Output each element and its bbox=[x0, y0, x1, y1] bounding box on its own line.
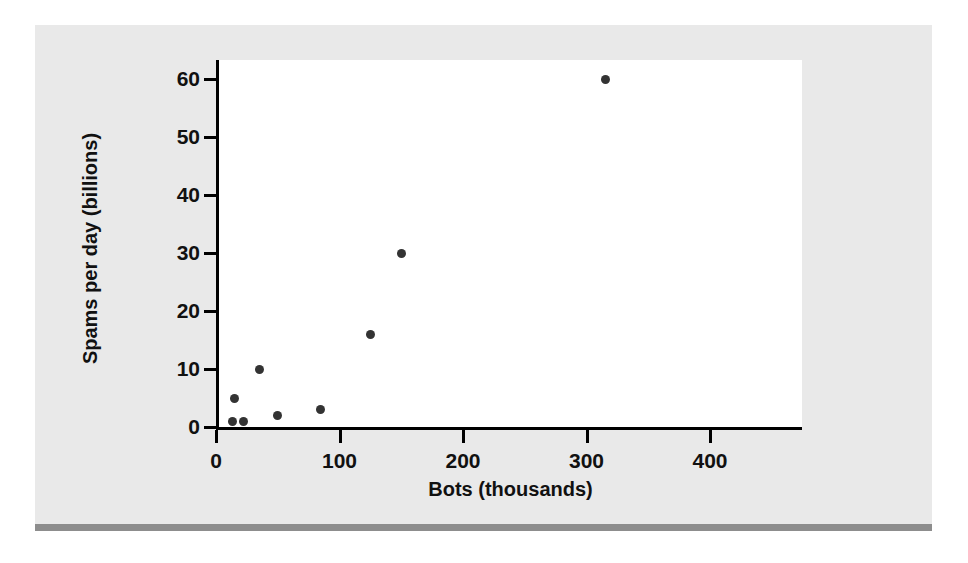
scatter-point bbox=[255, 365, 264, 374]
x-axis-tick-label: 100 bbox=[305, 450, 375, 471]
y-axis-tick bbox=[204, 368, 217, 371]
y-axis-tick-label: 30 bbox=[148, 242, 200, 263]
y-axis-tick bbox=[204, 194, 217, 197]
y-axis-title: Spams per day (billions) bbox=[79, 104, 102, 394]
y-axis-tick-label: 50 bbox=[148, 126, 200, 147]
figure-root: 0102030405060 0100200300400 Bots (thousa… bbox=[0, 0, 968, 563]
y-axis-tick bbox=[204, 310, 217, 313]
x-axis-tick bbox=[586, 430, 589, 443]
y-axis-tick-label: 60 bbox=[148, 68, 200, 89]
y-axis-tick-label: 0 bbox=[148, 416, 200, 437]
y-axis-tick bbox=[204, 252, 217, 255]
x-axis-tick-label: 200 bbox=[428, 450, 498, 471]
y-axis-tick bbox=[204, 78, 217, 81]
x-axis-tick-label: 400 bbox=[675, 450, 745, 471]
y-axis-tick bbox=[204, 426, 217, 429]
y-axis-tick-label: 10 bbox=[148, 358, 200, 379]
x-axis-title: Bots (thousands) bbox=[219, 478, 802, 501]
x-axis-tick-label: 300 bbox=[552, 450, 622, 471]
scatter-point bbox=[366, 330, 375, 339]
y-axis-tick bbox=[204, 136, 217, 139]
scatter-point bbox=[230, 394, 239, 403]
scatter-point bbox=[239, 417, 248, 426]
scatter-point bbox=[316, 405, 325, 414]
x-axis-tick bbox=[339, 430, 342, 443]
y-axis-tick-labels: 0102030405060 bbox=[138, 0, 200, 500]
y-axis-line bbox=[216, 60, 219, 430]
x-axis-tick-label: 0 bbox=[181, 450, 251, 471]
x-axis-tick bbox=[462, 430, 465, 443]
x-axis-line bbox=[216, 427, 802, 430]
y-axis-tick-label: 40 bbox=[148, 184, 200, 205]
y-axis-tick-label: 20 bbox=[148, 300, 200, 321]
scatter-point bbox=[273, 411, 282, 420]
scatter-point bbox=[397, 249, 406, 258]
x-axis-tick bbox=[709, 430, 712, 443]
plot-area bbox=[219, 60, 802, 427]
scatter-point bbox=[601, 75, 610, 84]
x-axis-tick bbox=[215, 430, 218, 443]
bottom-rule bbox=[35, 524, 932, 531]
scatter-point bbox=[228, 417, 237, 426]
